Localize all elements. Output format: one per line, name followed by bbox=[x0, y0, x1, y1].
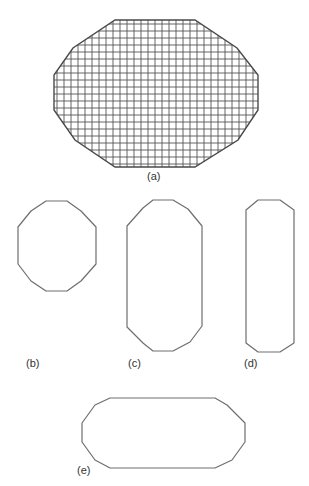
panel-a-label: (a) bbox=[147, 171, 160, 182]
panel-c-shape bbox=[127, 200, 202, 351]
panel-d-label: (d) bbox=[244, 358, 257, 369]
panel-a-shape bbox=[54, 20, 258, 167]
panel-b-label: (b) bbox=[26, 358, 39, 369]
panel-d-shape bbox=[246, 200, 294, 352]
panel-b-shape bbox=[18, 201, 96, 291]
panel-e-shape bbox=[82, 398, 245, 468]
figure-canvas bbox=[0, 0, 309, 486]
panel-c-label: (c) bbox=[128, 358, 141, 369]
panel-e-label: (e) bbox=[77, 465, 90, 476]
